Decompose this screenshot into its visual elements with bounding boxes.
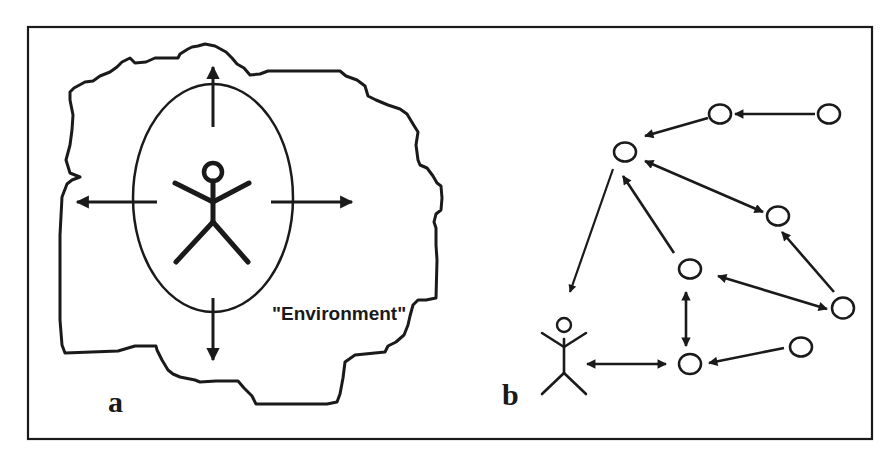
figure: "Environment" a [0,0,896,461]
panel-label-b: b [502,378,519,411]
network-node-3 [818,105,840,124]
panel-b: b [502,105,854,412]
panel-a: "Environment" a [60,44,442,418]
edge-n5-n6 [718,276,827,309]
network-node-5 [679,260,701,279]
network-node-1 [614,143,636,162]
actor-figure-large [175,163,249,262]
actor-figure-small [542,318,586,394]
environment-label: "Environment" [272,303,406,324]
edge-n1-n4 [645,161,763,212]
edge-n5-n1 [623,176,674,253]
network-node-6 [832,298,854,319]
edge-n8-n7 [709,348,784,363]
edge-n1-actor [570,169,613,292]
figure-canvas: "Environment" a [0,0,896,461]
network-node-4 [767,207,789,226]
network-node-2 [709,105,731,124]
edge-n2-n1 [645,118,708,136]
network-node-7 [679,354,701,374]
panel-label-a: a [108,385,123,418]
figure-frame [28,27,872,439]
edge-n6-n4 [782,232,834,292]
network-node-8 [790,338,812,357]
